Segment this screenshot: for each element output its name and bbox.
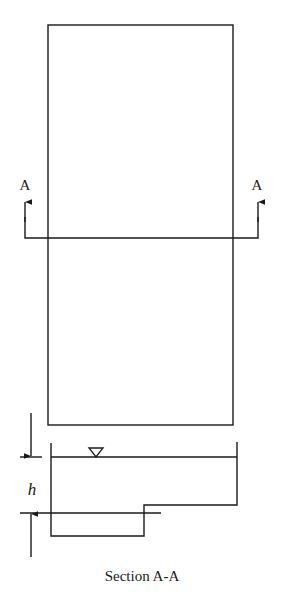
- diagram-canvas: A A h Section A-A: [0, 0, 282, 613]
- dimension-label-h: h: [28, 480, 37, 499]
- water-surface-triangle-icon: [89, 448, 103, 457]
- section-label-right: A: [252, 177, 263, 193]
- section-label-left: A: [20, 177, 31, 193]
- channel-section-outline: [51, 442, 237, 536]
- figure-caption: Section A-A: [105, 568, 180, 584]
- plan-view-rectangle: [48, 25, 233, 425]
- section-cut-line: [25, 217, 258, 238]
